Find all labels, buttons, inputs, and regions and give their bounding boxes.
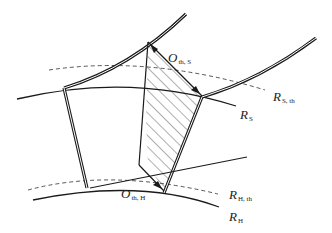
tooth-side-left — [64, 88, 87, 188]
label-o-th-s-sub: th, S — [178, 58, 191, 66]
label-r-s-sub: S — [249, 115, 253, 123]
label-o-th-h: Oth, H — [121, 187, 145, 202]
diagram-svg — [0, 0, 332, 233]
label-r-h-sub: H — [238, 217, 243, 225]
label-r-h-main: R — [229, 209, 237, 224]
label-r-s: RS — [240, 108, 253, 123]
diagram-canvas: Oth, S Oth, H RS, th RS RH, th RH — [0, 0, 332, 233]
label-r-s-main: R — [240, 107, 248, 122]
label-r-h-th-sub: H, th — [238, 195, 252, 203]
label-r-s-th: RS, th — [273, 90, 295, 105]
label-r-h-th: RH, th — [229, 188, 252, 203]
label-o-th-h-sub: th, H — [131, 194, 145, 202]
label-r-h-th-main: R — [229, 187, 237, 202]
label-r-s-th-sub: S, th — [282, 97, 295, 105]
label-r-s-th-main: R — [273, 89, 281, 104]
label-o-th-s: Oth, S — [168, 51, 191, 66]
label-o-th-s-main: O — [168, 50, 177, 65]
label-r-h: RH — [229, 210, 243, 225]
label-o-th-h-main: O — [121, 186, 130, 201]
